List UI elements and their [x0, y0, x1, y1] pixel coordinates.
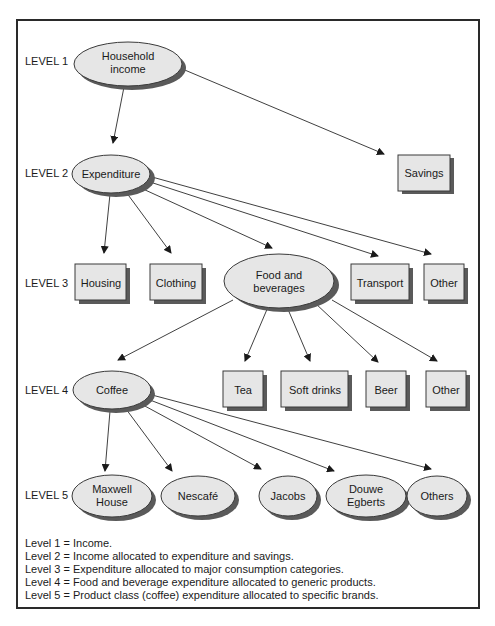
svg-text:Transport: Transport: [357, 277, 404, 289]
node-nescafe: Nescafé: [161, 476, 239, 520]
svg-text:Other: Other: [430, 277, 458, 289]
svg-text:Clothing: Clothing: [156, 277, 196, 289]
node-douwe-egberts: Douwe Egberts: [326, 475, 410, 521]
node-jacobs: Jacobs: [259, 476, 321, 520]
node-maxwell-house: Maxwell House: [72, 475, 156, 521]
edge-coffee-nescafe: [126, 409, 172, 471]
svg-text:Others: Others: [420, 490, 454, 502]
level-5-label: LEVEL 5: [25, 489, 68, 501]
legend: Level 1 = Income. Level 2 = Income alloc…: [25, 537, 379, 602]
legend-line-3: Level 3 = Expenditure allocated to major…: [25, 563, 379, 576]
svg-text:Coffee: Coffee: [96, 384, 128, 396]
legend-line-1: Level 1 = Income.: [25, 537, 379, 550]
node-housing: Housing: [75, 264, 130, 304]
legend-line-5: Level 5 = Product class (coffee) expendi…: [25, 589, 379, 602]
svg-text:Douwe: Douwe: [349, 483, 383, 495]
node-other-level4: Other: [426, 371, 470, 411]
svg-text:Expenditure: Expenditure: [82, 168, 141, 180]
node-others: Others: [407, 476, 471, 520]
node-expenditure: Expenditure: [72, 155, 155, 197]
edge-food-softdrinks: [287, 307, 310, 361]
svg-text:Soft drinks: Soft drinks: [289, 384, 341, 396]
svg-text:income: income: [110, 63, 145, 75]
edge-food-coffee: [118, 300, 233, 360]
node-savings: Savings: [398, 155, 454, 194]
node-transport: Transport: [351, 264, 413, 304]
svg-text:Egberts: Egberts: [347, 496, 385, 508]
node-food-and-beverages: Food and beverages: [224, 254, 339, 312]
edge-income-savings: [180, 68, 384, 154]
svg-text:House: House: [96, 496, 128, 508]
edge-food-beer: [315, 303, 378, 362]
level-3-label: LEVEL 3: [25, 277, 68, 289]
edge-coffee-maxwell: [105, 411, 110, 471]
edge-expenditure-housing: [104, 194, 110, 253]
svg-text:Beer: Beer: [374, 384, 398, 396]
legend-line-4: Level 4 = Food and beverage expenditure …: [25, 576, 379, 589]
svg-text:Maxwell: Maxwell: [92, 483, 132, 495]
node-soft-drinks: Soft drinks: [281, 371, 352, 411]
level-4-label: LEVEL 4: [25, 384, 68, 396]
node-household-income: Household income: [74, 42, 186, 90]
edge-expenditure-clothing: [126, 192, 171, 253]
node-clothing: Clothing: [150, 264, 206, 304]
svg-text:Household: Household: [102, 50, 155, 62]
svg-text:Food and: Food and: [256, 269, 302, 281]
node-beer: Beer: [366, 371, 410, 411]
edge-income-expenditure: [113, 87, 124, 143]
hierarchy-diagram: LEVEL 1 LEVEL 2 LEVEL 3 LEVEL 4 LEVEL 5 …: [0, 0, 495, 626]
edge-expenditure-other: [152, 177, 431, 254]
svg-text:Savings: Savings: [404, 167, 444, 179]
level-2-label: LEVEL 2: [25, 167, 68, 179]
edge-food-other: [332, 300, 437, 361]
legend-line-2: Level 2 = Income allocated to expenditur…: [25, 550, 379, 563]
svg-text:Jacobs: Jacobs: [271, 490, 306, 502]
svg-text:Housing: Housing: [81, 277, 121, 289]
edge-food-tea: [245, 307, 268, 361]
svg-text:Other: Other: [432, 384, 460, 396]
level-1-label: LEVEL 1: [25, 55, 68, 67]
node-tea: Tea: [223, 371, 267, 411]
svg-text:beverages: beverages: [253, 282, 305, 294]
edge-expenditure-food: [143, 189, 272, 248]
svg-text:Tea: Tea: [234, 384, 253, 396]
edge-expenditure-transport: [150, 182, 378, 256]
svg-text:Nescafé: Nescafé: [178, 490, 218, 502]
edge-coffee-jacobs: [143, 405, 261, 469]
node-coffee: Coffee: [73, 371, 155, 413]
node-other-level3: Other: [424, 264, 468, 304]
